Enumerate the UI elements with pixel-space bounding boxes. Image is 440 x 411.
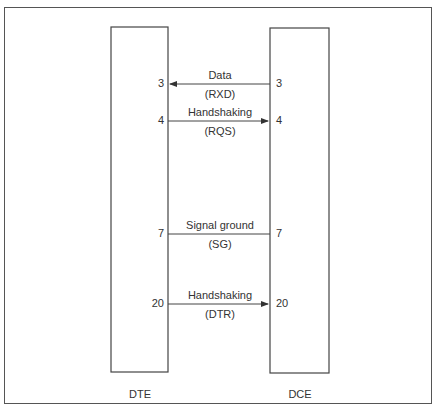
signal-abbr-rqs: (RQS) <box>204 125 235 137</box>
signal-name-data: Data <box>208 69 231 81</box>
signal-abbr-rxd: (RXD) <box>205 88 236 100</box>
dte-label: DTE <box>129 388 151 400</box>
dce-pin-4: 4 <box>276 114 282 126</box>
dce-pin-7: 7 <box>276 227 282 239</box>
dce-pin-3: 3 <box>276 77 282 89</box>
connection-diagram <box>0 0 440 411</box>
dce-label: DCE <box>288 388 311 400</box>
signal-name-handshaking-rqs: Handshaking <box>188 106 252 118</box>
dte-pin-20: 20 <box>152 297 164 309</box>
signal-name-signal-ground: Signal ground <box>186 219 254 231</box>
dte-pin-7: 7 <box>158 227 164 239</box>
dce-pin-20: 20 <box>276 297 288 309</box>
signal-abbr-dtr: (DTR) <box>205 308 235 320</box>
dte-pin-4: 4 <box>158 114 164 126</box>
dte-pin-3: 3 <box>158 77 164 89</box>
signal-abbr-sg: (SG) <box>208 238 231 250</box>
signal-name-handshaking-dtr: Handshaking <box>188 289 252 301</box>
